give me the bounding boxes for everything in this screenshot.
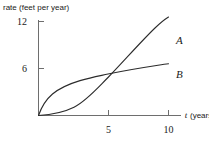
y-axis-label: rate (feet per year) (3, 3, 70, 12)
x-axis-variable: t (185, 110, 188, 120)
y-tick-label-6: 6 (22, 63, 27, 74)
x-tick-label-5: 5 (106, 124, 111, 135)
curve-label-b: B (176, 68, 183, 80)
x-tick-label-10: 10 (164, 124, 174, 135)
curve-b (39, 64, 169, 116)
curve-label-a: A (175, 34, 183, 46)
chart-figure: rate (feet per year) 12 6 5 10 t (years)… (0, 0, 209, 143)
y-tick-label-12: 12 (17, 16, 27, 27)
chart-canvas: rate (feet per year) 12 6 5 10 t (years)… (0, 0, 209, 143)
x-axis-units: (years) (190, 111, 209, 120)
